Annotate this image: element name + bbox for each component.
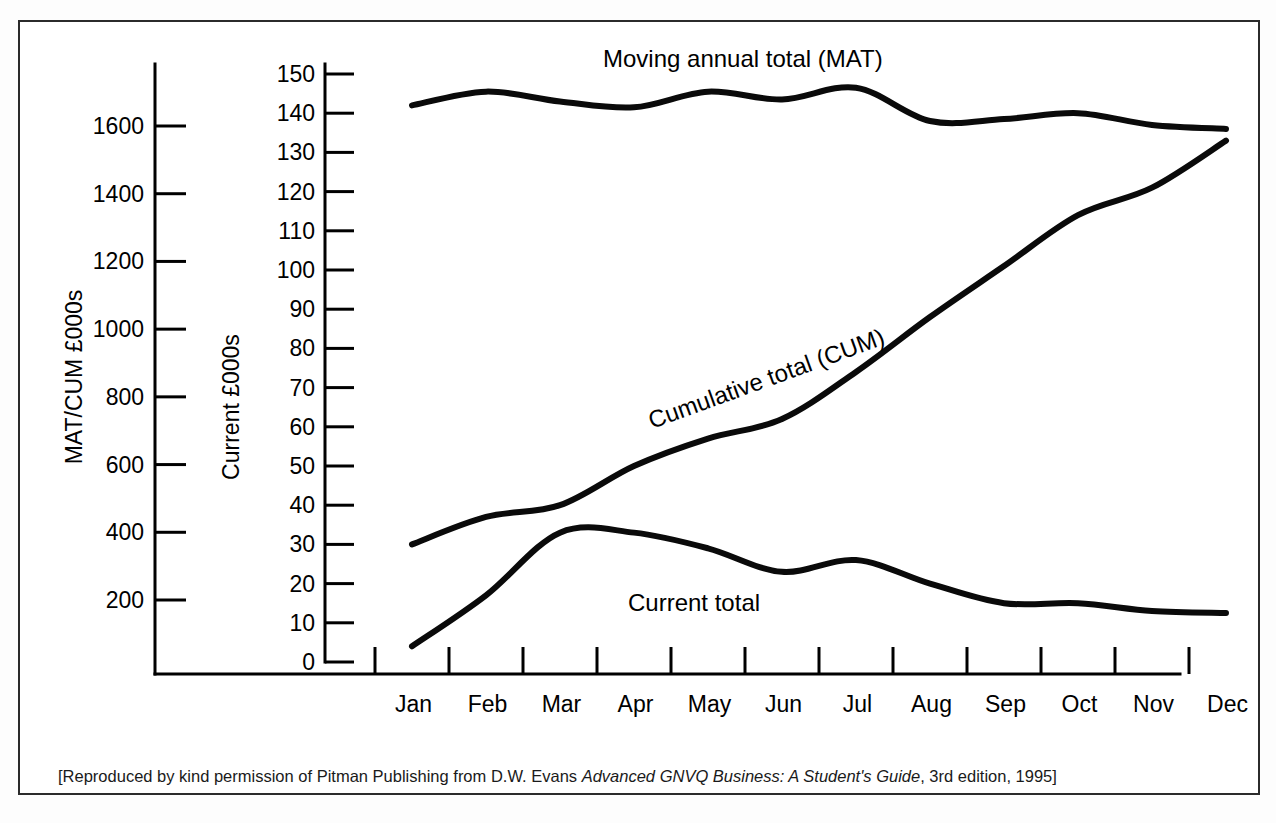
x-axis-group: JanFebMarAprMayJunJulAugSepOctNovDec <box>155 647 1248 717</box>
left-axis-tick-label: 1400 <box>93 181 144 207</box>
current-axis-tick-label: 130 <box>277 139 315 165</box>
x-axis-month-label: Sep <box>985 691 1026 717</box>
x-axis-month-label: Mar <box>542 691 582 717</box>
series-annotations: Moving annual total (MAT) Cumulative tot… <box>603 45 888 616</box>
caption-book-title: Advanced GNVQ Business: A Student's Guid… <box>582 767 921 785</box>
left-axis-tick-label: 800 <box>106 384 144 410</box>
current-axis-tick-label: 150 <box>277 61 315 87</box>
left-axis-tick-labels: 1600140012001000800600400200 <box>93 113 144 613</box>
left-axis-tick-label: 1200 <box>93 248 144 274</box>
left-axis-group: 1600140012001000800600400200 MAT/CUM £00… <box>61 64 186 674</box>
caption-prefix: [Reproduced by kind permission of Pitman… <box>58 767 582 785</box>
series-line-current <box>412 527 1226 646</box>
current-axis-title: Current £000s <box>218 334 244 480</box>
x-axis-month-label: Feb <box>468 691 508 717</box>
caption-suffix: , 3rd edition, 1995] <box>920 767 1057 785</box>
x-axis-month-label: Jun <box>765 691 802 717</box>
x-axis-month-labels: JanFebMarAprMayJunJulAugSepOctNovDec <box>395 691 1248 717</box>
x-axis-month-label: Oct <box>1062 691 1098 717</box>
current-axis-tick-label: 90 <box>289 296 315 322</box>
left-axis-title: MAT/CUM £000s <box>61 290 87 465</box>
current-axis-tick-label: 110 <box>278 218 315 244</box>
current-axis-tick-label: 40 <box>289 492 315 518</box>
current-axis-tick-label: 120 <box>277 179 315 205</box>
right-inner-axis-group: 1501401301201101009080706050403020100 Cu… <box>218 61 354 675</box>
figure-root: 1600140012001000800600400200 MAT/CUM £00… <box>0 0 1276 823</box>
current-axis-tick-label: 10 <box>289 610 315 636</box>
figure-frame: 1600140012001000800600400200 MAT/CUM £00… <box>18 20 1260 795</box>
line-chart: 1600140012001000800600400200 MAT/CUM £00… <box>20 22 1258 793</box>
series-line-cum <box>412 141 1226 545</box>
x-axis-month-label: Apr <box>618 691 654 717</box>
left-axis-ticks <box>155 126 186 600</box>
current-axis-ticks <box>325 74 354 662</box>
x-axis-ticks <box>375 647 1189 674</box>
current-axis-tick-label: 80 <box>289 335 315 361</box>
current-axis-tick-label: 70 <box>289 375 315 401</box>
x-axis-month-label: Nov <box>1133 691 1174 717</box>
current-axis-tick-label: 60 <box>289 414 315 440</box>
left-axis-tick-label: 1600 <box>93 113 144 139</box>
current-axis-tick-label: 20 <box>289 571 315 597</box>
x-axis-month-label: Aug <box>911 691 952 717</box>
x-axis-month-label: Dec <box>1207 691 1248 717</box>
left-axis-tick-label: 1000 <box>93 316 144 342</box>
current-axis-tick-label: 140 <box>277 100 315 126</box>
annotation-mat: Moving annual total (MAT) <box>603 45 883 72</box>
left-axis-tick-label: 200 <box>106 587 144 613</box>
x-axis-month-label: Jul <box>843 691 872 717</box>
x-axis-month-label: Jan <box>395 691 432 717</box>
left-axis-tick-label: 600 <box>106 452 144 478</box>
current-axis-tick-label: 100 <box>277 257 315 283</box>
figure-caption: [Reproduced by kind permission of Pitman… <box>58 767 1238 786</box>
annotation-current: Current total <box>628 589 760 616</box>
current-axis-tick-labels: 1501401301201101009080706050403020100 <box>277 61 315 675</box>
series-line-mat <box>412 87 1226 129</box>
current-axis-tick-label: 0 <box>302 649 315 675</box>
left-axis-tick-label: 400 <box>106 519 144 545</box>
current-axis-tick-label: 30 <box>289 531 315 557</box>
current-axis-tick-label: 50 <box>289 453 315 479</box>
x-axis-month-label: May <box>688 691 732 717</box>
